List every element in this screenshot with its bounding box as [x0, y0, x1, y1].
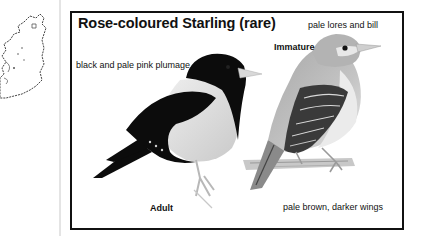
plate-title: Rose-coloured Starling (rare) [78, 15, 276, 31]
label-pale-lores: pale lores and bill [308, 20, 378, 30]
label-adult: Adult [150, 203, 173, 213]
adult-starling-icon [93, 54, 262, 208]
label-immature: Immature [274, 42, 315, 52]
label-wings: pale brown, darker wings [283, 202, 383, 212]
birds-illustration [0, 0, 422, 236]
label-plumage: black and pale pink plumage [76, 60, 190, 70]
